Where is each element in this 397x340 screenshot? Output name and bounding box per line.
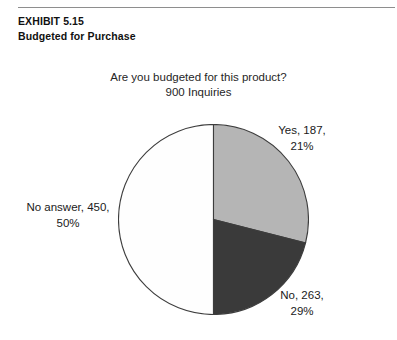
pie-chart-figure: Are you budgeted for this product? 900 I… [0, 60, 397, 340]
pie-label-yes-line1: Yes, 187, [258, 123, 346, 139]
exhibit-number: EXHIBIT 5.15 [18, 14, 348, 29]
pie-label-no-line2: 29% [258, 304, 346, 320]
chart-title: Are you budgeted for this product? 900 I… [0, 70, 397, 100]
pie-label-no-answer: No answer, 450, 50% [14, 200, 122, 231]
pie-label-no: No, 263, 29% [258, 288, 346, 319]
chart-title-line: Are you budgeted for this product? [0, 70, 397, 85]
pie-label-yes: Yes, 187, 21% [258, 123, 346, 154]
pie-label-no-answer-line2: 50% [14, 216, 122, 232]
header-divider-rule [18, 7, 395, 8]
exhibit-header: EXHIBIT 5.15 Budgeted for Purchase [18, 14, 348, 44]
pie-slice-no-answer [119, 125, 214, 315]
pie-label-no-answer-line1: No answer, 450, [14, 200, 122, 216]
pie-label-no-line1: No, 263, [258, 288, 346, 304]
chart-subtitle-line: 900 Inquiries [0, 85, 397, 100]
pie-label-yes-line2: 21% [258, 139, 346, 155]
exhibit-title: Budgeted for Purchase [18, 29, 348, 44]
